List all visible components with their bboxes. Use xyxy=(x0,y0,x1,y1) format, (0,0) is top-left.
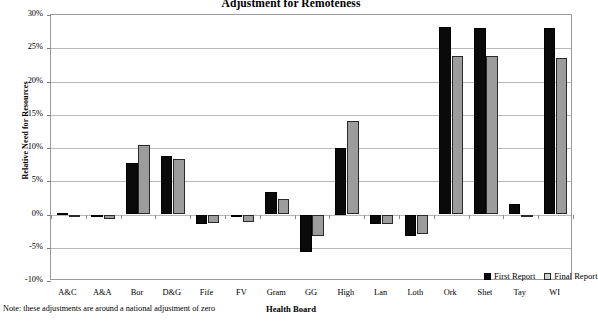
legend: First Report Final Report xyxy=(484,271,598,281)
bar-final-report xyxy=(312,215,324,237)
x-tick-mark xyxy=(329,215,330,219)
bar-first-report xyxy=(91,215,103,217)
bar-first-report xyxy=(196,215,208,225)
x-tick-mark xyxy=(538,215,539,219)
x-tick-mark xyxy=(503,215,504,219)
y-tick-mark xyxy=(47,281,51,282)
y-axis-tick-label: 10% xyxy=(2,142,43,151)
bar-first-report xyxy=(231,215,243,217)
bar-final-report xyxy=(243,215,255,223)
y-axis-tick-label: -5% xyxy=(2,242,43,251)
bar-first-report xyxy=(509,204,521,215)
bar-first-report xyxy=(57,213,69,215)
y-axis-tick-label: 25% xyxy=(2,42,43,51)
bar-final-report xyxy=(521,215,533,217)
bar-first-report xyxy=(544,28,556,215)
y-axis-tick-label: 20% xyxy=(2,76,43,85)
bar-first-report xyxy=(474,28,486,215)
bar-first-report xyxy=(439,27,451,215)
legend-label-first-report: First Report xyxy=(494,271,535,281)
bar-first-report xyxy=(335,148,347,215)
bar-final-report xyxy=(278,199,290,215)
x-tick-mark xyxy=(190,215,191,219)
x-axis-tick-label: WI xyxy=(525,288,585,297)
plot-area: First Report Final Report xyxy=(50,14,572,280)
bar-final-report xyxy=(382,215,394,225)
x-axis-title: Health Board xyxy=(0,304,582,314)
x-tick-mark xyxy=(295,215,296,219)
legend-label-final-report: Final Report xyxy=(554,271,597,281)
bar-first-report xyxy=(161,156,173,215)
x-tick-mark xyxy=(155,215,156,219)
x-tick-mark xyxy=(225,215,226,219)
x-tick-mark xyxy=(469,215,470,219)
bar-final-report xyxy=(69,215,81,217)
bar-final-report xyxy=(556,58,568,215)
y-axis-tick-label: -10% xyxy=(2,275,43,284)
legend-swatch-first-report xyxy=(484,273,491,280)
x-tick-mark xyxy=(121,215,122,219)
bar-final-report xyxy=(486,56,498,214)
y-axis-tick-label: 0% xyxy=(2,209,43,218)
y-axis-tick-label: 15% xyxy=(2,109,43,118)
bar-first-report xyxy=(405,215,417,237)
bar-final-report xyxy=(452,56,464,214)
x-tick-mark xyxy=(399,215,400,219)
x-tick-mark xyxy=(364,215,365,219)
x-tick-mark xyxy=(573,215,574,219)
x-tick-mark xyxy=(434,215,435,219)
legend-item-final-report: Final Report xyxy=(544,271,597,281)
y-axis-tick-label: 5% xyxy=(2,175,43,184)
legend-item-first-report: First Report xyxy=(484,271,535,281)
bar-first-report xyxy=(370,215,382,225)
bar-final-report xyxy=(417,215,429,234)
y-axis-title: Relative Need for Resources xyxy=(21,51,30,211)
bar-final-report xyxy=(208,215,220,224)
x-tick-mark xyxy=(51,215,52,219)
bar-final-report xyxy=(104,215,116,220)
chart-title: Adjustment for Remoteness xyxy=(0,0,582,9)
bar-final-report xyxy=(173,159,185,215)
bar-series-group xyxy=(51,15,571,279)
x-tick-mark xyxy=(260,215,261,219)
legend-swatch-final-report xyxy=(544,273,551,280)
bar-first-report xyxy=(265,192,277,215)
y-axis-tick-label: 30% xyxy=(2,9,43,18)
bar-final-report xyxy=(347,121,359,214)
bar-first-report xyxy=(126,163,138,214)
bar-final-report xyxy=(138,145,150,215)
bar-first-report xyxy=(300,215,312,253)
x-tick-mark xyxy=(86,215,87,219)
